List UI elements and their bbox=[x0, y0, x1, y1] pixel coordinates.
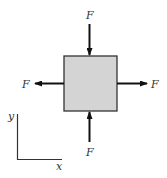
force-right-label: F bbox=[150, 78, 159, 91]
force-bottom-label: F bbox=[85, 146, 94, 159]
force-top: F bbox=[85, 9, 94, 55]
coordinate-axes: y x bbox=[7, 110, 63, 173]
axes-lines bbox=[18, 114, 63, 160]
x-axis-label: x bbox=[56, 160, 63, 173]
stress-element-diagram: F F F F y x bbox=[0, 0, 167, 178]
y-axis-label: y bbox=[7, 110, 15, 123]
stress-element-square bbox=[64, 56, 117, 111]
force-bottom: F bbox=[85, 112, 94, 159]
force-right: F bbox=[117, 78, 159, 91]
force-left-label: F bbox=[21, 78, 30, 91]
force-top-label: F bbox=[85, 9, 94, 22]
force-left: F bbox=[21, 78, 64, 91]
